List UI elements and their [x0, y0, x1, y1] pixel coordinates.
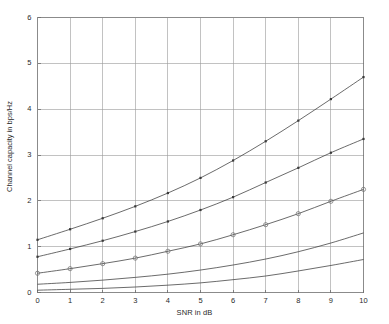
y-tick-label: 3 — [16, 151, 32, 159]
data-point-marker — [362, 138, 364, 140]
y-tick-label: 0 — [16, 289, 32, 297]
plot-canvas — [0, 0, 389, 324]
grid-lines — [38, 18, 364, 293]
x-tick-label: 6 — [223, 297, 243, 305]
data-point-marker — [265, 140, 267, 142]
data-point-marker — [232, 196, 234, 198]
y-tick-label: 5 — [16, 59, 32, 67]
data-point-marker — [134, 205, 136, 207]
data-point-marker — [232, 159, 234, 161]
data-point-marker — [297, 120, 299, 122]
data-point-marker — [134, 230, 136, 232]
data-point-marker — [69, 228, 71, 230]
data-point-marker — [36, 256, 38, 258]
x-tick-label: 5 — [191, 297, 211, 305]
x-tick-label: 3 — [125, 297, 145, 305]
data-point-marker — [362, 76, 364, 78]
data-point-marker — [265, 181, 267, 183]
data-point-marker — [199, 177, 201, 179]
x-tick-label: 0 — [28, 297, 48, 305]
data-point-marker — [102, 240, 104, 242]
y-tick-label: 1 — [16, 243, 32, 251]
data-point-marker — [199, 209, 201, 211]
data-point-marker — [69, 248, 71, 250]
y-tick-label: 2 — [16, 197, 32, 205]
data-point-marker — [297, 167, 299, 169]
data-point-marker — [330, 152, 332, 154]
x-tick-label: 8 — [288, 297, 308, 305]
data-point-marker — [167, 220, 169, 222]
x-tick-label: 1 — [60, 297, 80, 305]
data-point-marker — [36, 239, 38, 241]
data-point-marker — [330, 98, 332, 100]
x-tick-label: 7 — [256, 297, 276, 305]
x-tick-label: 2 — [93, 297, 113, 305]
data-point-marker — [167, 192, 169, 194]
x-tick-label: 4 — [158, 297, 178, 305]
y-tick-label: 6 — [16, 14, 32, 22]
chart-figure: Channel capacity in bps/Hz SNR in dB 012… — [0, 0, 389, 324]
data-point-marker — [102, 217, 104, 219]
x-tick-label: 9 — [321, 297, 341, 305]
x-tick-label: 10 — [354, 297, 374, 305]
y-tick-label: 4 — [16, 105, 32, 113]
